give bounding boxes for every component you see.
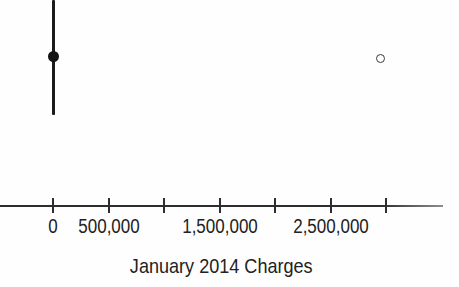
boxplot-figure: 0500,0001,500,0002,500,000 January 2014 … (0, 0, 459, 287)
x-tick-mark (385, 198, 387, 213)
x-tick-mark (52, 198, 54, 213)
x-tick-label: 500,000 (58, 216, 160, 237)
x-axis-title-text: January 2014 Charges (130, 254, 313, 278)
x-tick-mark (274, 198, 276, 213)
x-tick-mark (108, 198, 110, 213)
x-tick-label: 2,500,000 (280, 216, 382, 237)
x-tick-mark (219, 198, 221, 213)
outlier-open-circle-marker (376, 54, 385, 63)
x-axis-title: January 2014 Charges (0, 254, 443, 278)
x-tick-mark (330, 198, 332, 213)
x-tick-label: 1,500,000 (169, 216, 271, 237)
x-axis-line (0, 205, 443, 207)
x-tick-mark (163, 198, 165, 213)
median-dot-marker (48, 51, 59, 62)
